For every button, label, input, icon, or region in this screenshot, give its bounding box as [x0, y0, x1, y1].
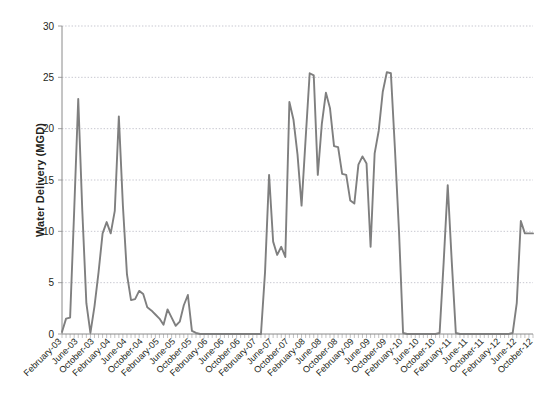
y-tick-label: 10 — [43, 226, 55, 237]
data-series — [62, 72, 533, 334]
line-chart-plot: 051015202530 February-03June-03October-0… — [0, 0, 557, 412]
series-line-water-delivery — [62, 72, 533, 334]
y-tick-label: 15 — [43, 175, 55, 186]
y-tick-label: 5 — [48, 277, 54, 288]
x-axis-labels: February-03June-03October-03February-04J… — [22, 336, 535, 378]
y-tick-label: 25 — [43, 72, 55, 83]
y-tick-label: 30 — [43, 21, 55, 32]
y-tick-label: 20 — [43, 123, 55, 134]
y-axis-ticks: 051015202530 — [43, 21, 62, 340]
chart-container: Water Delivery (MGD) 051015202530 Februa… — [0, 0, 557, 412]
